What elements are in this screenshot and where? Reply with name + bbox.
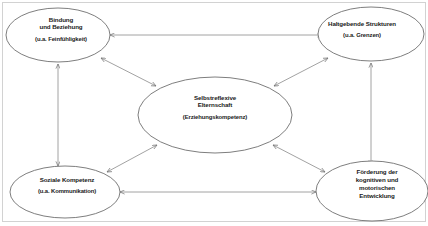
node-foerderung-entwicklung[interactable] bbox=[316, 161, 428, 221]
connector-haltgebende-center bbox=[274, 58, 328, 86]
diagram-canvas: Bindung und Beziehung (u.a. Feinfühligke… bbox=[0, 0, 428, 226]
diagram-graphics bbox=[0, 0, 428, 226]
node-bindung-und-beziehung[interactable] bbox=[6, 8, 110, 62]
node-haltgebende-strukturen[interactable] bbox=[318, 7, 424, 61]
node-selbstreflexive-elternschaft[interactable] bbox=[138, 77, 292, 153]
connector-bindung-center bbox=[101, 58, 156, 86]
connector-foerderung-center bbox=[273, 145, 325, 172]
node-soziale-kompetenz[interactable] bbox=[10, 166, 120, 218]
connector-soziale-center bbox=[107, 145, 157, 172]
